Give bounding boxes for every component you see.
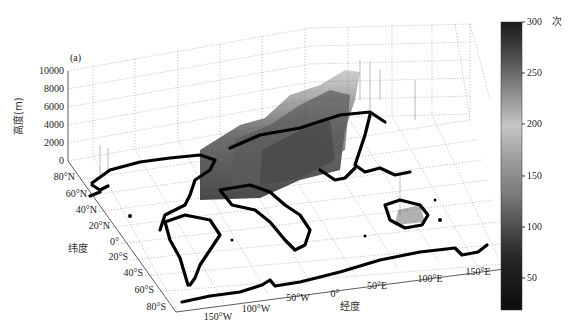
- svg-text:0: 0: [59, 155, 64, 166]
- svg-text:50: 50: [527, 272, 537, 283]
- svg-text:2000: 2000: [44, 137, 64, 148]
- svg-text:50°W: 50°W: [286, 292, 310, 303]
- svg-text:80°N: 80°N: [54, 171, 75, 182]
- panel-label: (a): [70, 52, 81, 64]
- svg-text:8000: 8000: [44, 83, 64, 94]
- svg-text:300: 300: [527, 16, 542, 27]
- svg-text:250: 250: [527, 67, 542, 78]
- svg-text:50°E: 50°E: [367, 280, 387, 291]
- svg-text:150°W: 150°W: [204, 311, 233, 322]
- svg-text:0°: 0°: [110, 236, 119, 247]
- x-axis-ticks: 150°W 100°W 50°W 0° 50°E 100°E 150°E: [204, 266, 491, 322]
- svg-text:100: 100: [527, 221, 542, 232]
- svg-text:6000: 6000: [44, 101, 64, 112]
- svg-text:4000: 4000: [44, 119, 64, 130]
- z-axis-label: 高度(m): [12, 97, 24, 135]
- svg-text:0°: 0°: [331, 288, 340, 299]
- svg-text:40°N: 40°N: [76, 204, 97, 215]
- svg-text:60°S: 60°S: [134, 284, 154, 295]
- svg-text:150: 150: [527, 170, 542, 181]
- y-axis-label: 纬度: [68, 242, 88, 254]
- chart-figure: (a): [0, 0, 573, 329]
- svg-text:10000: 10000: [39, 65, 64, 76]
- svg-text:200: 200: [527, 118, 542, 129]
- svg-text:100°W: 100°W: [242, 303, 271, 314]
- y-axis-ticks: 80°N 60°N 40°N 20°N 0° 20°S 40°S 60°S 80…: [54, 171, 166, 312]
- z-axis-ticks: 10000 8000 6000 4000 2000 0: [39, 65, 64, 166]
- density-columns: [100, 60, 425, 225]
- svg-text:20°S: 20°S: [108, 251, 128, 262]
- svg-text:60°N: 60°N: [66, 188, 87, 199]
- svg-text:100°E: 100°E: [417, 273, 442, 284]
- colorbar-unit-label: 次: [552, 15, 562, 27]
- svg-text:80°S: 80°S: [146, 301, 166, 312]
- svg-text:40°S: 40°S: [123, 267, 143, 278]
- colorbar: 300 250 200 150 100 50 次: [501, 15, 562, 310]
- svg-text:20°N: 20°N: [89, 220, 110, 231]
- svg-text:150°E: 150°E: [465, 266, 490, 277]
- x-axis-label: 经度: [340, 300, 360, 312]
